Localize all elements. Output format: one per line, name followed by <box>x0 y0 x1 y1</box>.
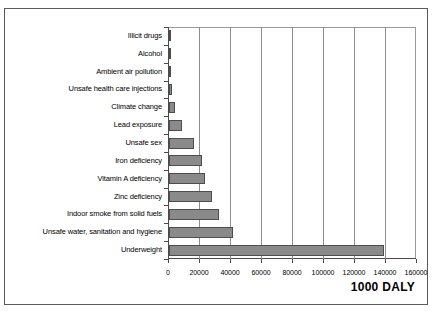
bar <box>169 30 171 41</box>
y-tick <box>164 116 168 117</box>
y-tick <box>164 170 168 171</box>
y-tick <box>164 223 168 224</box>
bar <box>169 173 205 184</box>
x-tick <box>385 259 386 263</box>
bar <box>169 138 194 149</box>
x-tick-label: 0 <box>166 269 170 276</box>
x-tick <box>199 259 200 263</box>
bar <box>169 66 171 77</box>
bar <box>169 227 233 238</box>
y-tick <box>164 134 168 135</box>
y-tick <box>164 27 168 28</box>
gridline <box>323 27 324 259</box>
x-tick <box>168 259 169 263</box>
category-label: Vitamin A deficiency <box>97 174 162 183</box>
x-tick-label: 160000 <box>405 269 428 276</box>
y-tick <box>164 63 168 64</box>
unit-caption: 1000 DALY <box>351 280 415 294</box>
gridline <box>385 27 386 259</box>
category-label: Underweight <box>121 245 162 254</box>
screenshot-root: Illicit drugsAlcoholAmbient air pollutio… <box>0 0 433 311</box>
x-tick-label: 40000 <box>221 269 240 276</box>
bar <box>169 191 212 202</box>
bar <box>169 209 219 220</box>
gridline <box>261 27 262 259</box>
y-tick <box>164 152 168 153</box>
category-label: Indoor smoke from solid fuels <box>67 209 162 218</box>
x-tick-label: 80000 <box>283 269 302 276</box>
top-bleed-text <box>0 0 433 7</box>
bar <box>169 120 182 131</box>
y-tick <box>164 205 168 206</box>
gridline <box>230 27 231 259</box>
category-axis-labels: Illicit drugsAlcoholAmbient air pollutio… <box>5 27 162 259</box>
category-label: Unsafe health care injections <box>69 84 162 93</box>
x-tick <box>261 259 262 263</box>
x-tick-label: 60000 <box>252 269 271 276</box>
bar <box>169 48 171 59</box>
y-tick <box>164 45 168 46</box>
category-label: Illicit drugs <box>128 31 162 40</box>
category-label: Zinc deficiency <box>114 192 162 201</box>
category-label: Alcohol <box>138 49 162 58</box>
x-tick <box>292 259 293 263</box>
x-tick-label: 100000 <box>312 269 335 276</box>
y-tick <box>164 259 168 260</box>
x-tick-label: 140000 <box>374 269 397 276</box>
bar <box>169 245 384 256</box>
gridline <box>292 27 293 259</box>
y-tick <box>164 188 168 189</box>
x-tick <box>416 259 417 263</box>
category-label: Climate change <box>111 102 162 111</box>
gridline <box>354 27 355 259</box>
x-tick-label: 120000 <box>343 269 366 276</box>
plot-right-border <box>415 27 416 259</box>
category-label: Ambient air pollution <box>96 67 162 76</box>
y-tick <box>164 98 168 99</box>
plot-area: 0200004000060000800001000001200001400001… <box>168 27 416 259</box>
category-label: Iron deficiency <box>115 156 162 165</box>
x-tick <box>230 259 231 263</box>
category-label: Unsafe sex <box>125 138 162 147</box>
x-tick <box>323 259 324 263</box>
category-label: Lead exposure <box>114 120 162 129</box>
chart-figure-frame: Illicit drugsAlcoholAmbient air pollutio… <box>4 8 428 305</box>
x-tick <box>354 259 355 263</box>
y-tick <box>164 81 168 82</box>
bar <box>169 102 175 113</box>
bar <box>169 155 202 166</box>
y-tick <box>164 241 168 242</box>
bar <box>169 84 172 95</box>
x-tick-label: 20000 <box>190 269 209 276</box>
gridline <box>199 27 200 259</box>
category-label: Unsafe water, sanitation and hygiene <box>43 227 162 236</box>
